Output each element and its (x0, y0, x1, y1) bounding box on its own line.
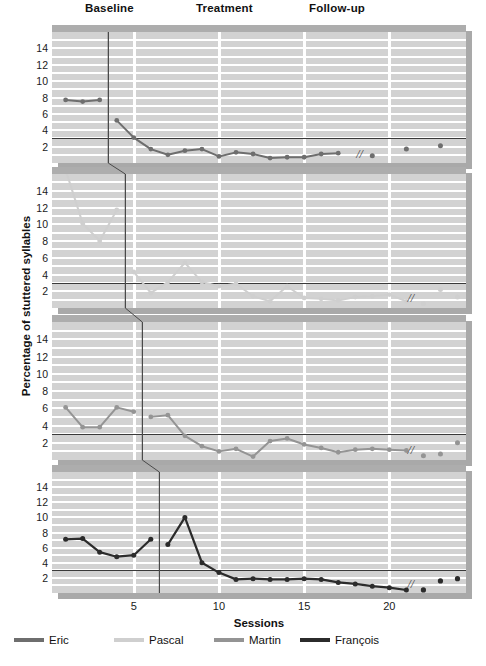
legend-item-martin[interactable]: Martin (214, 634, 281, 646)
data-point-followup (404, 147, 409, 152)
data-point (234, 281, 239, 286)
y-tick-label: 12 (22, 352, 48, 362)
panel-shadow-bottom (58, 308, 472, 314)
data-point (165, 280, 170, 285)
data-point (182, 515, 187, 520)
axis-break-mark: // (407, 443, 414, 458)
plot-area: // (52, 322, 466, 460)
data-point (114, 208, 119, 213)
y-tick-label: 14 (22, 482, 48, 492)
phase-label-treatment: Treatment (196, 2, 253, 14)
data-point-followup (370, 153, 375, 158)
data-point (97, 550, 102, 555)
legend-item-pascal[interactable]: Pascal (114, 634, 184, 646)
panel-eric: // (52, 25, 466, 163)
legend-label: François (335, 634, 379, 646)
phase-label-baseline: Baseline (85, 2, 134, 14)
x-tick-label: 20 (383, 600, 395, 612)
data-point-followup (421, 587, 426, 592)
data-point (234, 577, 239, 582)
data-point (148, 291, 153, 296)
data-point (336, 151, 341, 156)
x-tick-label: 15 (298, 600, 310, 612)
panel-pascal: // (52, 167, 466, 308)
data-point (97, 425, 102, 430)
panel-shadow-bottom (58, 593, 472, 599)
panel-top-band (52, 315, 466, 322)
y-tick-label: 14 (22, 43, 48, 53)
y-tick-label: 14 (22, 186, 48, 196)
data-point (148, 147, 153, 152)
data-point (182, 260, 187, 265)
data-point (251, 294, 256, 299)
data-point (63, 98, 68, 103)
data-point (148, 414, 153, 419)
y-tick-label: 12 (22, 60, 48, 70)
data-point (217, 284, 222, 289)
y-tick-label: 10 (22, 76, 48, 86)
data-point (80, 99, 85, 104)
y-tick-label: 6 (22, 403, 48, 413)
legend-label: Eric (49, 634, 69, 646)
data-point (200, 280, 205, 285)
data-point (63, 537, 68, 542)
data-point (97, 98, 102, 103)
data-point-followup (455, 440, 460, 445)
series-line-baseline (66, 407, 134, 427)
y-tick-label: 14 (22, 334, 48, 344)
y-tick-label: 4 (22, 421, 48, 431)
panel-françois: // (52, 465, 466, 593)
data-point (217, 449, 222, 454)
data-point (216, 570, 221, 575)
panel-martin: // (52, 315, 466, 460)
data-point (63, 405, 68, 410)
data-point-followup (438, 143, 443, 148)
data-point (285, 155, 290, 160)
x-tick-label: 10 (213, 600, 225, 612)
data-point (217, 154, 222, 159)
data-point (370, 446, 375, 451)
y-axis-ticks: 1412108642 (14, 472, 48, 593)
y-tick-label: 2 (22, 142, 48, 152)
data-point (336, 298, 341, 303)
data-point-followup (455, 295, 460, 300)
legend-label: Pascal (149, 634, 184, 646)
data-point (336, 580, 341, 585)
phase-header-row: Baseline Treatment Follow-up (0, 2, 486, 20)
y-tick-label: 2 (22, 286, 48, 296)
data-point (353, 581, 358, 586)
panel-top-band (52, 167, 466, 174)
data-point-followup (455, 576, 460, 581)
plot-area: // (52, 472, 466, 593)
data-point (131, 409, 136, 414)
series-line-baseline (66, 539, 151, 557)
legend-label: Martin (249, 634, 281, 646)
plot-area: // (52, 174, 466, 308)
data-point (182, 433, 187, 438)
panel-top-band (52, 25, 466, 32)
data-point (319, 577, 324, 582)
legend-item-franois[interactable]: François (300, 634, 379, 646)
y-tick-label: 4 (22, 125, 48, 135)
data-point (319, 446, 324, 451)
y-tick-label: 8 (22, 93, 48, 103)
data-point (353, 295, 358, 300)
x-tick-label: 5 (131, 600, 137, 612)
data-point (370, 294, 375, 299)
data-point (302, 576, 307, 581)
y-tick-label: 2 (22, 438, 48, 448)
legend-swatch-icon (114, 638, 144, 642)
data-point (251, 576, 256, 581)
series-line-treatment (117, 120, 338, 158)
data-point (165, 152, 170, 157)
legend-item-eric[interactable]: Eric (14, 634, 69, 646)
series-martin (52, 322, 466, 460)
data-point-followup (421, 301, 426, 306)
data-point (131, 553, 136, 558)
legend-swatch-icon (300, 638, 330, 642)
data-point (302, 442, 307, 447)
series-eric (52, 32, 466, 163)
panel-shadow-right (466, 321, 472, 466)
axis-break-mark: // (356, 147, 363, 162)
data-point (285, 577, 290, 582)
